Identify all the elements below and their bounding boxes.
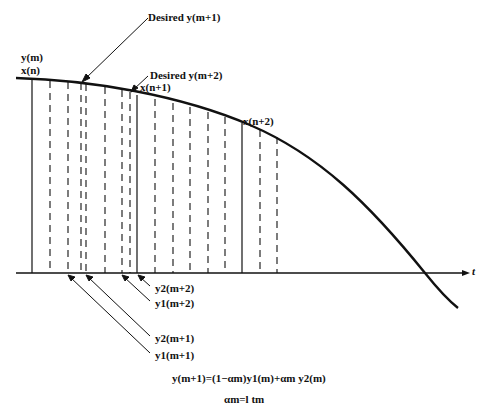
desired-arrows xyxy=(82,18,148,92)
interpolation-equation: y(m+1)=(1−αm)y1(m)+αm y2(m) xyxy=(172,373,326,384)
desired-y-m2-label: Desired y(m+2) xyxy=(150,70,222,81)
axis-arrow-icon xyxy=(462,270,470,276)
dashed-sample-lines xyxy=(50,81,277,273)
y-m-label: y(m) xyxy=(21,52,43,63)
diagram-svg xyxy=(0,0,480,417)
y1-m1-label: y1(m+1) xyxy=(155,350,194,361)
x-n-label: x(n) xyxy=(21,65,40,76)
x-n1-label: x(n+1) xyxy=(140,82,171,93)
alpha-equation: αm=l tm xyxy=(224,394,264,405)
desired-y-m1-label: Desired y(m+1) xyxy=(148,12,220,23)
x-n2-label: x(n+2) xyxy=(243,116,274,127)
sample-arrows xyxy=(68,275,150,353)
interpolation-diagram: Desired y(m+1) Desired y(m+2) y(m) x(n) … xyxy=(0,0,480,417)
y2-m1-label: y2(m+1) xyxy=(155,333,194,344)
y1-m2-label: y1(m+2) xyxy=(155,298,194,309)
t-axis-label: t xyxy=(472,266,475,277)
y2-m2-label: y2(m+2) xyxy=(155,283,194,294)
solid-sample-lines xyxy=(32,78,242,273)
